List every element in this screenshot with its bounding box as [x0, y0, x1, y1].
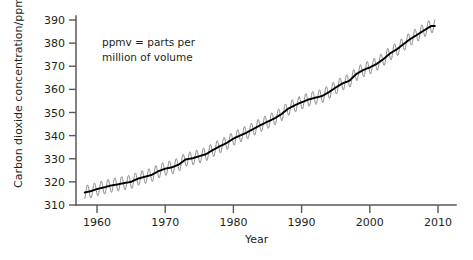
y-tick-label-350: 350 — [44, 107, 65, 120]
y-tick-label-370: 370 — [44, 60, 65, 73]
y-tick-label-310: 310 — [44, 199, 65, 212]
y-tick-label-390: 390 — [44, 14, 65, 27]
co2-keeling-curve-figure: 310320330340350360370380390 196019701980… — [0, 0, 473, 260]
y-tick-label-380: 380 — [44, 37, 65, 50]
y-tick-labels: 310320330340350360370380390 — [44, 14, 65, 212]
y-tick-label-320: 320 — [44, 176, 65, 189]
x-tick-label-1990: 1990 — [288, 216, 316, 229]
y-axis-title: Carbon dioxide concentration/ppmv — [12, 0, 25, 188]
y-tick-label-330: 330 — [44, 153, 65, 166]
x-axis-group: 196019701980199020002010 — [76, 205, 456, 229]
y-tick-marks — [69, 20, 76, 205]
y-axis-group: 310320330340350360370380390 — [44, 14, 76, 212]
x-tick-label-2010: 2010 — [424, 216, 452, 229]
x-tick-marks — [97, 205, 438, 213]
x-tick-label-2000: 2000 — [356, 216, 384, 229]
annotation-line-2: million of volume — [102, 51, 193, 63]
y-tick-label-360: 360 — [44, 83, 65, 96]
x-tick-label-1980: 1980 — [219, 216, 247, 229]
annotation-line-1: ppmv = parts per — [102, 36, 196, 48]
x-tick-label-1960: 1960 — [83, 216, 111, 229]
x-tick-labels: 196019701980199020002010 — [83, 216, 452, 229]
chart-canvas: 310320330340350360370380390 196019701980… — [0, 0, 473, 260]
y-tick-label-340: 340 — [44, 130, 65, 143]
x-tick-label-1970: 1970 — [151, 216, 179, 229]
x-axis-title: Year — [244, 233, 269, 246]
